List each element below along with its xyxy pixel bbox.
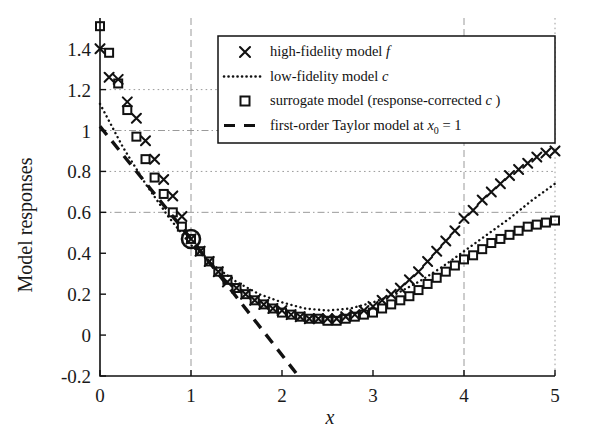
x-tick-label: 3 bbox=[368, 385, 378, 406]
y-tick-label: -0.2 bbox=[61, 366, 91, 387]
x-tick-label: 1 bbox=[186, 385, 196, 406]
legend-label-1: low-fidelity model c bbox=[270, 68, 389, 84]
y-tick-label: 0.6 bbox=[67, 202, 91, 223]
y-tick-label: 0.4 bbox=[67, 243, 91, 264]
y-tick-label: 1.4 bbox=[67, 39, 91, 60]
y-tick-label: 1 bbox=[82, 121, 92, 142]
y-tick-label: 1.2 bbox=[67, 80, 91, 101]
legend-text-symbol: c bbox=[382, 68, 389, 84]
legend-text-main: high-fidelity model bbox=[270, 43, 386, 59]
legend-label-0: high-fidelity model f bbox=[270, 43, 392, 59]
legend: high-fidelity model flow-fidelity model … bbox=[218, 36, 555, 143]
y-tick-label: 0 bbox=[82, 325, 92, 346]
x-tick-label: 5 bbox=[550, 385, 560, 406]
model-responses-chart: -0.200.20.40.60.811.21.4012345 Model res… bbox=[0, 0, 590, 438]
legend-label-2: surrogate model (response-corrected c ) bbox=[270, 92, 500, 109]
x-axis-title: x bbox=[325, 406, 335, 428]
legend-text-main: first-order Taylor model at bbox=[270, 117, 427, 133]
figure-container: -0.200.20.40.60.811.21.4012345 Model res… bbox=[0, 0, 590, 438]
y-tick-label: 0.2 bbox=[67, 284, 91, 305]
x-tick-label: 4 bbox=[459, 385, 469, 406]
x-tick-label: 2 bbox=[277, 385, 287, 406]
legend-text-main: surrogate model (response-corrected bbox=[270, 92, 485, 109]
legend-text-tail: ) bbox=[492, 92, 501, 109]
legend-text-main: low-fidelity model bbox=[270, 68, 382, 84]
y-axis-title: Model responses bbox=[14, 157, 37, 292]
legend-text-tail: = 1 bbox=[439, 117, 462, 133]
y-tick-label: 0.8 bbox=[67, 161, 91, 182]
x-tick-label: 0 bbox=[95, 385, 105, 406]
